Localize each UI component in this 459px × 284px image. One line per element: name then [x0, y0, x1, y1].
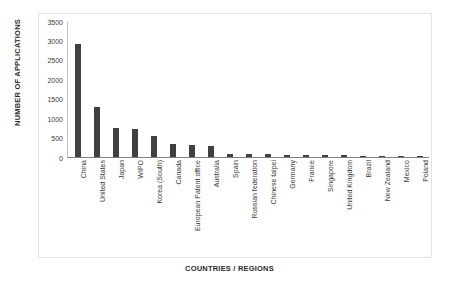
bar: [398, 156, 404, 157]
bar: [75, 44, 81, 157]
bar: [246, 154, 252, 157]
y-axis-tick-label: 2500: [31, 57, 63, 64]
x-axis-category-label-text: Korea (South): [156, 160, 163, 204]
bar: [379, 156, 385, 157]
bar: [417, 156, 423, 157]
x-axis-category-label-text: Russian federation: [251, 160, 258, 218]
bar: [227, 154, 233, 157]
x-axis-category-label: WIPO: [137, 160, 144, 179]
x-axis-category-label-text: Mexico: [403, 160, 410, 182]
x-axis-category-label-text: Australia: [213, 160, 220, 187]
bar-chart: 3500300025002000150010005000 ChinaUnited…: [0, 0, 459, 284]
x-axis-category-label-text: WIPO: [137, 160, 144, 179]
x-axis-category-label-text: Chinese taipei: [270, 160, 277, 204]
plot-area: [67, 22, 429, 158]
bar: [303, 155, 309, 157]
x-axis-category-labels: ChinaUnited StatesJapanWIPOKorea (South)…: [67, 160, 429, 256]
x-axis-category-label: Mexico: [403, 160, 410, 182]
y-axis-tick-label: 500: [31, 135, 63, 142]
y-axis-title: NUMBER OF APPLICATIONS: [13, 8, 22, 138]
bar: [360, 156, 366, 157]
bar: [132, 129, 138, 157]
x-axis-category-label-text: United States: [99, 160, 106, 202]
x-axis-category-label: Singapore: [327, 160, 334, 192]
x-axis-category-label-text: Germany: [289, 160, 296, 189]
x-axis-category-label-text: Japan: [118, 160, 125, 179]
x-axis-category-label: Brazil: [365, 160, 372, 178]
x-axis-category-label-text: New Zealand: [384, 160, 391, 201]
x-axis-title: COUNTRIES / REGIONS: [0, 264, 459, 273]
x-axis-category-label-text: Brazil: [365, 160, 372, 178]
x-axis-category-label-text: China: [80, 160, 87, 178]
x-axis-category-label: United States: [99, 160, 106, 202]
x-axis-category-label: Korea (South): [156, 160, 163, 204]
bars-layer: [68, 22, 429, 157]
bar: [151, 136, 157, 157]
x-axis-category-label-text: Singapore: [327, 160, 334, 192]
x-axis-category-label-text: United Kingdom: [346, 160, 353, 210]
x-axis-category-label: European Patent office: [194, 160, 201, 231]
y-axis-tick-label: 0: [31, 155, 63, 162]
x-axis-category-label-text: Spain: [232, 160, 239, 178]
x-axis-category-label: Russian federation: [251, 160, 258, 218]
x-axis-category-label-text: France: [308, 160, 315, 182]
bar: [284, 155, 290, 157]
x-axis-category-label-text: Poland: [422, 160, 429, 182]
y-axis-tick-label: 3500: [31, 19, 63, 26]
bar: [94, 107, 100, 158]
x-axis-category-label: Spain: [232, 160, 239, 178]
x-axis-category-label: Australia: [213, 160, 220, 187]
x-axis-category-label: Japan: [118, 160, 125, 179]
bar: [113, 128, 119, 157]
x-axis-category-label: Canada: [175, 160, 182, 185]
x-axis-category-label: United Kingdom: [346, 160, 353, 210]
bar: [170, 144, 176, 157]
x-axis-category-label: Chinese taipei: [270, 160, 277, 204]
y-axis-tick-labels: 3500300025002000150010005000: [29, 22, 63, 158]
bar: [322, 155, 328, 157]
x-axis-category-label: Germany: [289, 160, 296, 189]
bar: [265, 154, 271, 157]
x-axis-category-label: China: [80, 160, 87, 178]
y-axis-tick-label: 1000: [31, 116, 63, 123]
y-axis-tick-label: 2000: [31, 77, 63, 84]
bar: [341, 155, 347, 157]
y-axis-tick-label: 3000: [31, 38, 63, 45]
bar: [208, 146, 214, 157]
x-axis-category-label: France: [308, 160, 315, 182]
x-axis-category-label: New Zealand: [384, 160, 391, 201]
bar: [189, 145, 195, 157]
x-axis-category-label-text: Canada: [175, 160, 182, 185]
x-axis-category-label-text: European Patent office: [194, 160, 201, 231]
x-axis-category-label: Poland: [422, 160, 429, 182]
y-axis-tick-label: 1500: [31, 96, 63, 103]
